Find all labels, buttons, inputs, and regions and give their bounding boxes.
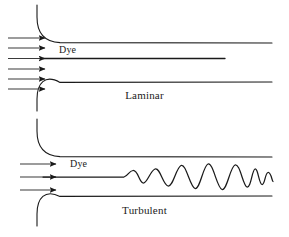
- turbulent-pipe-wall-top: [37, 119, 272, 157]
- laminar-pipe-wall-top: [37, 5, 272, 43]
- laminar-inlet-arrows: [8, 38, 45, 89]
- turbulent-dye-label: Dye: [70, 158, 87, 169]
- laminar-dye-label: Dye: [59, 44, 76, 55]
- flow-diagram-figure: Dye Laminar Dye Turbulent: [0, 0, 289, 237]
- turbulent-caption: Turbulent: [0, 204, 289, 216]
- laminar-caption: Laminar: [0, 89, 289, 101]
- flow-diagram-svg: [0, 0, 289, 237]
